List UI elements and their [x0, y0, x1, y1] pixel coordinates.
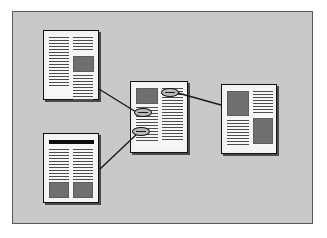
text-column-left — [49, 149, 69, 182]
image-block — [73, 56, 94, 72]
image-block-top-left — [227, 91, 249, 116]
link-marker-to-bottom-left-document[interactable] — [132, 127, 150, 136]
image-block-left — [49, 182, 69, 198]
link-marker-to-right-document[interactable] — [161, 88, 179, 97]
text-column-left — [49, 37, 69, 88]
right-document[interactable] — [221, 84, 277, 154]
text-column-right — [73, 149, 93, 182]
image-block — [136, 88, 158, 104]
text-column-left-lower — [227, 120, 249, 147]
bottom-left-document[interactable] — [43, 133, 99, 203]
image-block-right — [73, 182, 93, 198]
text-column-right-upper — [73, 37, 93, 52]
text-column-right — [253, 91, 273, 115]
text-column-right-lower — [73, 75, 93, 102]
top-left-document[interactable] — [43, 30, 99, 100]
diagram-canvas — [0, 0, 327, 238]
document-body — [225, 88, 273, 150]
document-body — [47, 34, 95, 96]
header-bar — [49, 140, 94, 144]
document-body — [47, 137, 95, 199]
center-document[interactable] — [130, 81, 188, 153]
image-block-bottom-right — [253, 118, 273, 144]
link-marker-to-top-left-document[interactable] — [134, 108, 152, 117]
